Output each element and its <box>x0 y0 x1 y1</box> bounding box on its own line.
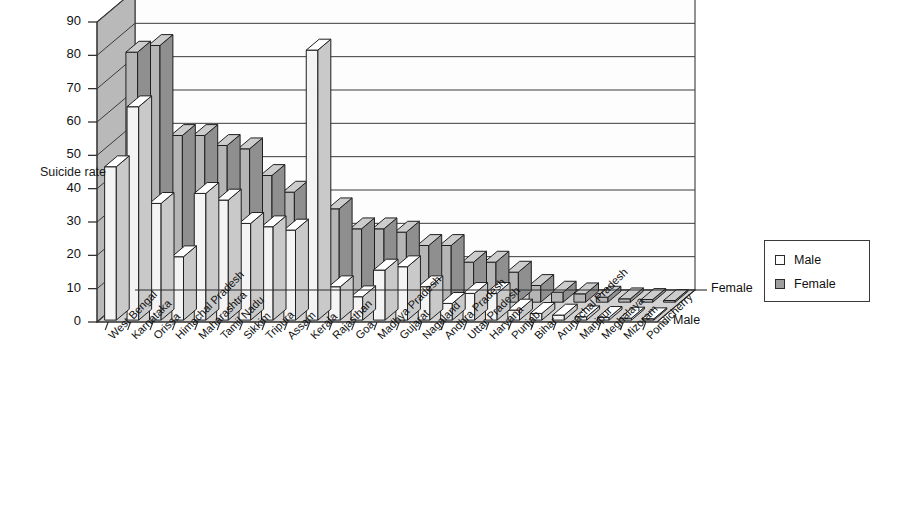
y-axis-tick-label: 60 <box>47 113 81 128</box>
legend-swatch-female <box>775 279 785 289</box>
y-axis-tick-label: 90 <box>47 13 81 28</box>
y-axis-tick-label: 0 <box>47 313 81 328</box>
suicide-rate-3d-bar-chart: Suicide rate 0102030405060708090 West Be… <box>0 0 904 510</box>
y-axis-tick-label: 40 <box>47 180 81 195</box>
y-axis-tick-label: 70 <box>47 80 81 95</box>
legend-swatch-male <box>775 255 785 265</box>
legend-label-female: Female <box>794 277 836 291</box>
y-axis-tick-label: 10 <box>47 280 81 295</box>
y-axis-tick-label: 20 <box>47 246 81 261</box>
legend-item-female: Female <box>775 275 836 293</box>
legend: Male Female <box>764 240 870 302</box>
y-axis-tick-label: 80 <box>47 46 81 61</box>
y-axis-tick-label: 30 <box>47 213 81 228</box>
legend-label-male: Male <box>794 253 821 267</box>
depth-axis-label-female: Female <box>711 281 753 295</box>
depth-axis-label-male: Male <box>673 313 700 327</box>
y-axis-tick-label: 50 <box>47 146 81 161</box>
legend-item-male: Male <box>775 251 821 269</box>
y-axis-title: Suicide rate <box>40 165 106 179</box>
